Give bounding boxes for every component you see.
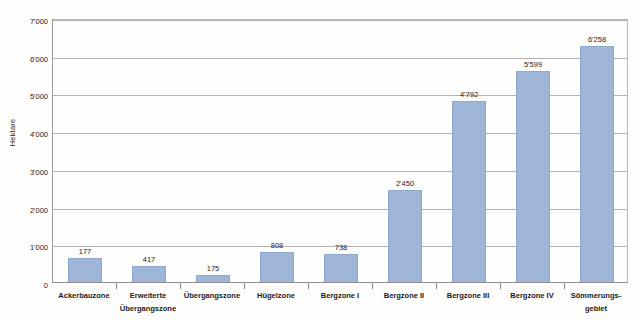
x-axis-category-label: Übergangszone xyxy=(180,290,244,303)
plot-area: 01'0002'0003'0004'0005'0006'0007'000 177… xyxy=(52,19,628,283)
bar-value-label: 417 xyxy=(143,255,156,264)
x-axis-tick xyxy=(564,283,565,289)
bar-value-label: 5'599 xyxy=(524,60,542,69)
bar-slot: 5'599 xyxy=(501,20,565,282)
bar-value-label: 4'792 xyxy=(460,90,478,99)
y-axis-title: Hektare xyxy=(8,103,17,163)
y-tick-label: 0 xyxy=(44,281,48,290)
bar-slot: 417 xyxy=(117,20,181,282)
bar-value-label: 177 xyxy=(79,247,92,256)
y-tick-label: 7'000 xyxy=(30,17,48,26)
x-axis-category-label: Bergzone II xyxy=(372,290,436,303)
bar-value-label: 2'450 xyxy=(396,179,414,188)
bar[interactable] xyxy=(260,252,294,282)
x-axis-category-label: Bergzone III xyxy=(436,290,500,303)
bar-value-label: 6'258 xyxy=(588,35,606,44)
bar-slot: 738 xyxy=(309,20,373,282)
y-tick-label: 4'000 xyxy=(30,130,48,139)
x-axis-category-label: Bergzone I xyxy=(308,290,372,303)
x-axis-tick xyxy=(372,283,373,289)
bars-layer: 1774171758087382'4504'7925'5996'258 xyxy=(53,20,627,282)
bar-slot: 2'450 xyxy=(373,20,437,282)
bar-slot: 6'258 xyxy=(565,20,629,282)
x-axis-tick xyxy=(244,283,245,289)
bar[interactable] xyxy=(324,254,358,282)
x-axis-category-label: Bergzone IV xyxy=(500,290,564,303)
bar[interactable] xyxy=(68,258,102,283)
bar-chart: Hektare 01'0002'0003'0004'0005'0006'0007… xyxy=(0,0,638,320)
x-axis-category-label: Hügelzone xyxy=(244,290,308,303)
y-tick-label: 1'000 xyxy=(30,243,48,252)
x-axis-tick xyxy=(180,283,181,289)
bar-value-label: 738 xyxy=(335,243,348,252)
bar[interactable] xyxy=(452,101,486,282)
bar[interactable] xyxy=(580,46,614,282)
bar-slot: 177 xyxy=(53,20,117,282)
y-tick-label: 5'000 xyxy=(30,92,48,101)
bar-value-label: 808 xyxy=(271,241,284,250)
bar[interactable] xyxy=(388,190,422,282)
x-axis-tick xyxy=(436,283,437,289)
bar-slot: 4'792 xyxy=(437,20,501,282)
y-tick-label: 3'000 xyxy=(30,167,48,176)
x-axis-ticks xyxy=(52,283,628,289)
bar-value-label: 175 xyxy=(207,264,220,273)
x-axis-tick xyxy=(116,283,117,289)
y-tick-label: 2'000 xyxy=(30,205,48,214)
x-axis-labels: AckerbauzoneErweiterte ÜbergangszoneÜber… xyxy=(52,290,628,320)
bar[interactable] xyxy=(196,275,230,282)
x-axis-category-label: Sömmerungs- gebiet xyxy=(564,290,628,315)
bar[interactable] xyxy=(516,71,550,282)
bar-slot: 175 xyxy=(181,20,245,282)
x-axis-category-label: Ackerbauzone xyxy=(52,290,116,303)
bar[interactable] xyxy=(132,266,166,282)
y-tick-label: 6'000 xyxy=(30,54,48,63)
x-axis-category-label: Erweiterte Übergangszone xyxy=(116,290,180,315)
x-axis-tick xyxy=(500,283,501,289)
x-axis-tick xyxy=(308,283,309,289)
bar-slot: 808 xyxy=(245,20,309,282)
